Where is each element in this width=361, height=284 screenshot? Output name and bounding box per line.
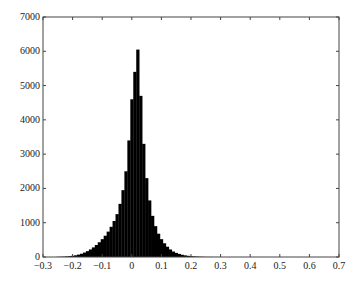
x-tick-label: 0.3 xyxy=(214,260,227,271)
histogram-bar xyxy=(116,214,119,257)
histogram-bar xyxy=(172,252,175,257)
histogram-bar xyxy=(98,242,101,257)
histogram-bars xyxy=(56,50,219,257)
histogram-bar xyxy=(89,249,92,257)
histogram-chart: −0.3−0.2−0.100.10.20.30.40.50.60.7 01000… xyxy=(0,0,361,284)
y-tick-label: 1000 xyxy=(20,217,40,228)
x-tick-label: 0.4 xyxy=(244,260,257,271)
x-tick-label: 0.6 xyxy=(303,260,316,271)
histogram-bar xyxy=(148,200,151,257)
y-tick-label: 5000 xyxy=(20,80,40,91)
y-tick-label: 7000 xyxy=(20,11,40,22)
histogram-bar xyxy=(107,232,110,257)
histogram-bar xyxy=(169,249,172,257)
histogram-bar xyxy=(127,140,130,257)
y-axis: 01000200030004000500060007000 xyxy=(20,11,339,262)
histogram-bar xyxy=(86,251,89,257)
histogram-bar xyxy=(130,99,133,257)
x-tick-label: −0.1 xyxy=(93,260,111,271)
histogram-bar xyxy=(163,243,166,257)
x-tick-label: 0.5 xyxy=(274,260,287,271)
x-tick-label: 0.2 xyxy=(185,260,198,271)
y-tick-label: 0 xyxy=(35,251,40,262)
x-tick-label: 0.1 xyxy=(155,260,168,271)
plot-frame xyxy=(43,17,339,257)
histogram-bar xyxy=(110,227,113,257)
histogram-bar xyxy=(92,247,95,257)
histogram-bar xyxy=(133,72,136,257)
histogram-bar xyxy=(157,234,160,257)
histogram-bar xyxy=(83,253,86,257)
histogram-bar xyxy=(175,253,178,257)
histogram-bar xyxy=(104,236,107,257)
y-tick-label: 2000 xyxy=(20,182,40,193)
x-axis: −0.3−0.2−0.100.10.20.30.40.50.60.7 xyxy=(34,17,345,271)
y-tick-label: 4000 xyxy=(20,114,40,125)
x-tick-label: −0.2 xyxy=(64,260,82,271)
histogram-bar xyxy=(142,144,145,257)
y-tick-label: 3000 xyxy=(20,148,40,159)
histogram-bar xyxy=(118,204,121,257)
histogram-bar xyxy=(124,171,127,257)
histogram-bar xyxy=(151,216,154,257)
histogram-bar xyxy=(154,226,157,257)
histogram-bar xyxy=(136,50,139,257)
y-tick-label: 6000 xyxy=(20,45,40,56)
histogram-bar xyxy=(113,221,116,257)
histogram-bar xyxy=(95,245,98,257)
histogram-bar xyxy=(166,247,169,257)
x-tick-label: 0.7 xyxy=(333,260,346,271)
x-tick-label: 0 xyxy=(129,260,134,271)
histogram-bar xyxy=(121,190,124,257)
histogram-bar xyxy=(145,178,148,257)
histogram-bar xyxy=(139,96,142,257)
